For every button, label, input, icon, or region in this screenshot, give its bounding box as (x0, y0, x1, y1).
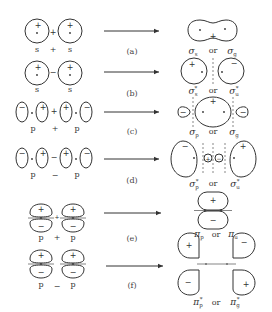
sigma-p-antibonding-mo: − + − + (171, 141, 256, 177)
orbital-label: s (68, 85, 72, 94)
operator-label: + (52, 124, 59, 133)
plus-sign: + (35, 21, 42, 30)
combine-sign: − (51, 153, 58, 162)
minus-sign: − (38, 268, 45, 277)
plus-sign: + (70, 205, 77, 214)
s-orbital-left: + (25, 61, 49, 85)
minus-sign: − (180, 108, 187, 117)
minus-sign: − (240, 108, 247, 117)
p-orbital-left: − + (16, 148, 48, 168)
plus-sign: + (38, 251, 45, 260)
orbital-label: p (74, 170, 79, 179)
plus-sign: + (186, 241, 193, 250)
combine-sign: + (54, 213, 59, 220)
row-d: − + − + − p − p (d) − + − (16, 141, 256, 191)
orbital-label: p (74, 124, 79, 133)
plus-sign: + (205, 155, 210, 162)
row-a: + + + s + s (a) + σs or σg (25, 19, 237, 58)
plus-sign: + (70, 251, 77, 260)
p-orbital-right: + − (60, 204, 86, 232)
row-c: − + + + − p + p (c) − + − (16, 97, 248, 139)
plus-sign: + (38, 205, 45, 214)
sigma-p-bonding-mo: − + − (178, 97, 248, 127)
orbital-label: p (30, 124, 35, 133)
row-f: + − + − p − p (f) + − (28, 233, 255, 309)
mo-label: σp* (189, 178, 199, 191)
minus-sign: − (19, 103, 26, 112)
orbital-label: s (35, 85, 39, 94)
p-orbital-left: + − (28, 204, 54, 232)
or-label: or (212, 230, 221, 239)
plus-sign: + (210, 32, 217, 41)
plus-sign: + (67, 63, 74, 72)
orbital-label: p (70, 233, 75, 242)
minus-sign: − (84, 103, 91, 112)
minus-sign: − (84, 149, 91, 158)
mo-label: πg* (229, 296, 240, 309)
s-orbital-right: + (58, 61, 82, 85)
minus-sign: − (210, 216, 217, 225)
row-caption: (a) (126, 47, 137, 56)
plus-sign: + (35, 63, 42, 72)
minus-sign: − (70, 268, 77, 277)
combine-sign: + (51, 107, 58, 116)
minus-sign: − (70, 222, 77, 231)
plus-sign: + (210, 196, 217, 205)
plus-sign: + (40, 149, 47, 158)
orbital-diagram: + + + s + s (a) + σs or σg + − (0, 0, 272, 312)
row-caption: (d) (126, 176, 137, 185)
pi-antibonding-mo: + − − + (178, 233, 255, 295)
minus-sign: − (182, 142, 189, 151)
s-orbital-right: + (58, 19, 82, 43)
plus-sign: + (40, 103, 47, 112)
combine-sign: − (50, 68, 57, 77)
mo-label: πp* (192, 296, 203, 309)
orbital-label: s (35, 45, 39, 54)
pi-bonding-mo: + − (194, 192, 232, 229)
minus-sign: − (216, 155, 221, 162)
p-orbital-right: + − (60, 250, 86, 278)
orbital-label: p (38, 280, 43, 289)
minus-sign: − (185, 278, 192, 287)
orbital-label: p (30, 170, 35, 179)
minus-sign: − (38, 222, 45, 231)
plus-sign: + (243, 280, 250, 289)
operator-label: + (50, 45, 57, 54)
plus-sign: + (67, 21, 74, 30)
orbital-label: p (70, 280, 75, 289)
plus-sign: + (63, 103, 70, 112)
row-e: + − + + − p + p (e) + − πp (28, 192, 238, 243)
minus-sign: − (19, 149, 26, 158)
p-orbital-right: + − (60, 148, 92, 168)
or-label: or (209, 127, 218, 136)
row-caption: (b) (126, 89, 137, 98)
or-label: or (209, 179, 218, 188)
row-caption: (c) (127, 127, 138, 136)
plus-sign: + (189, 60, 196, 69)
orbital-label: p (38, 233, 43, 242)
minus-sign: − (241, 238, 248, 247)
minus-sign: − (231, 59, 238, 68)
plus-sign: + (63, 149, 70, 158)
mo-label: σg (227, 46, 237, 58)
sigma-antibonding-mo: + − (181, 58, 244, 86)
row-caption: (f) (127, 281, 136, 290)
mo-label: σp (189, 127, 199, 139)
row-caption: (e) (127, 234, 138, 243)
combine-sign: + (50, 28, 57, 37)
mo-label: σu* (230, 178, 240, 190)
mo-label: σu* (229, 85, 239, 97)
mo-label: σs* (189, 85, 198, 97)
operator-label: − (54, 282, 61, 291)
p-orbital-left: + − (28, 250, 54, 278)
mo-label: σg (229, 127, 239, 139)
orbital-label: s (68, 45, 72, 54)
sigma-bonding-mo: + (188, 20, 237, 41)
operator-label: + (54, 233, 61, 242)
operator-label: − (52, 171, 59, 180)
row-b: + − + s s (b) + − σs* or σu* (25, 58, 244, 98)
p-orbital-right: + − (60, 102, 92, 122)
s-orbital-left: + (25, 19, 49, 43)
or-label: or (212, 298, 221, 307)
plus-sign: + (240, 142, 247, 151)
